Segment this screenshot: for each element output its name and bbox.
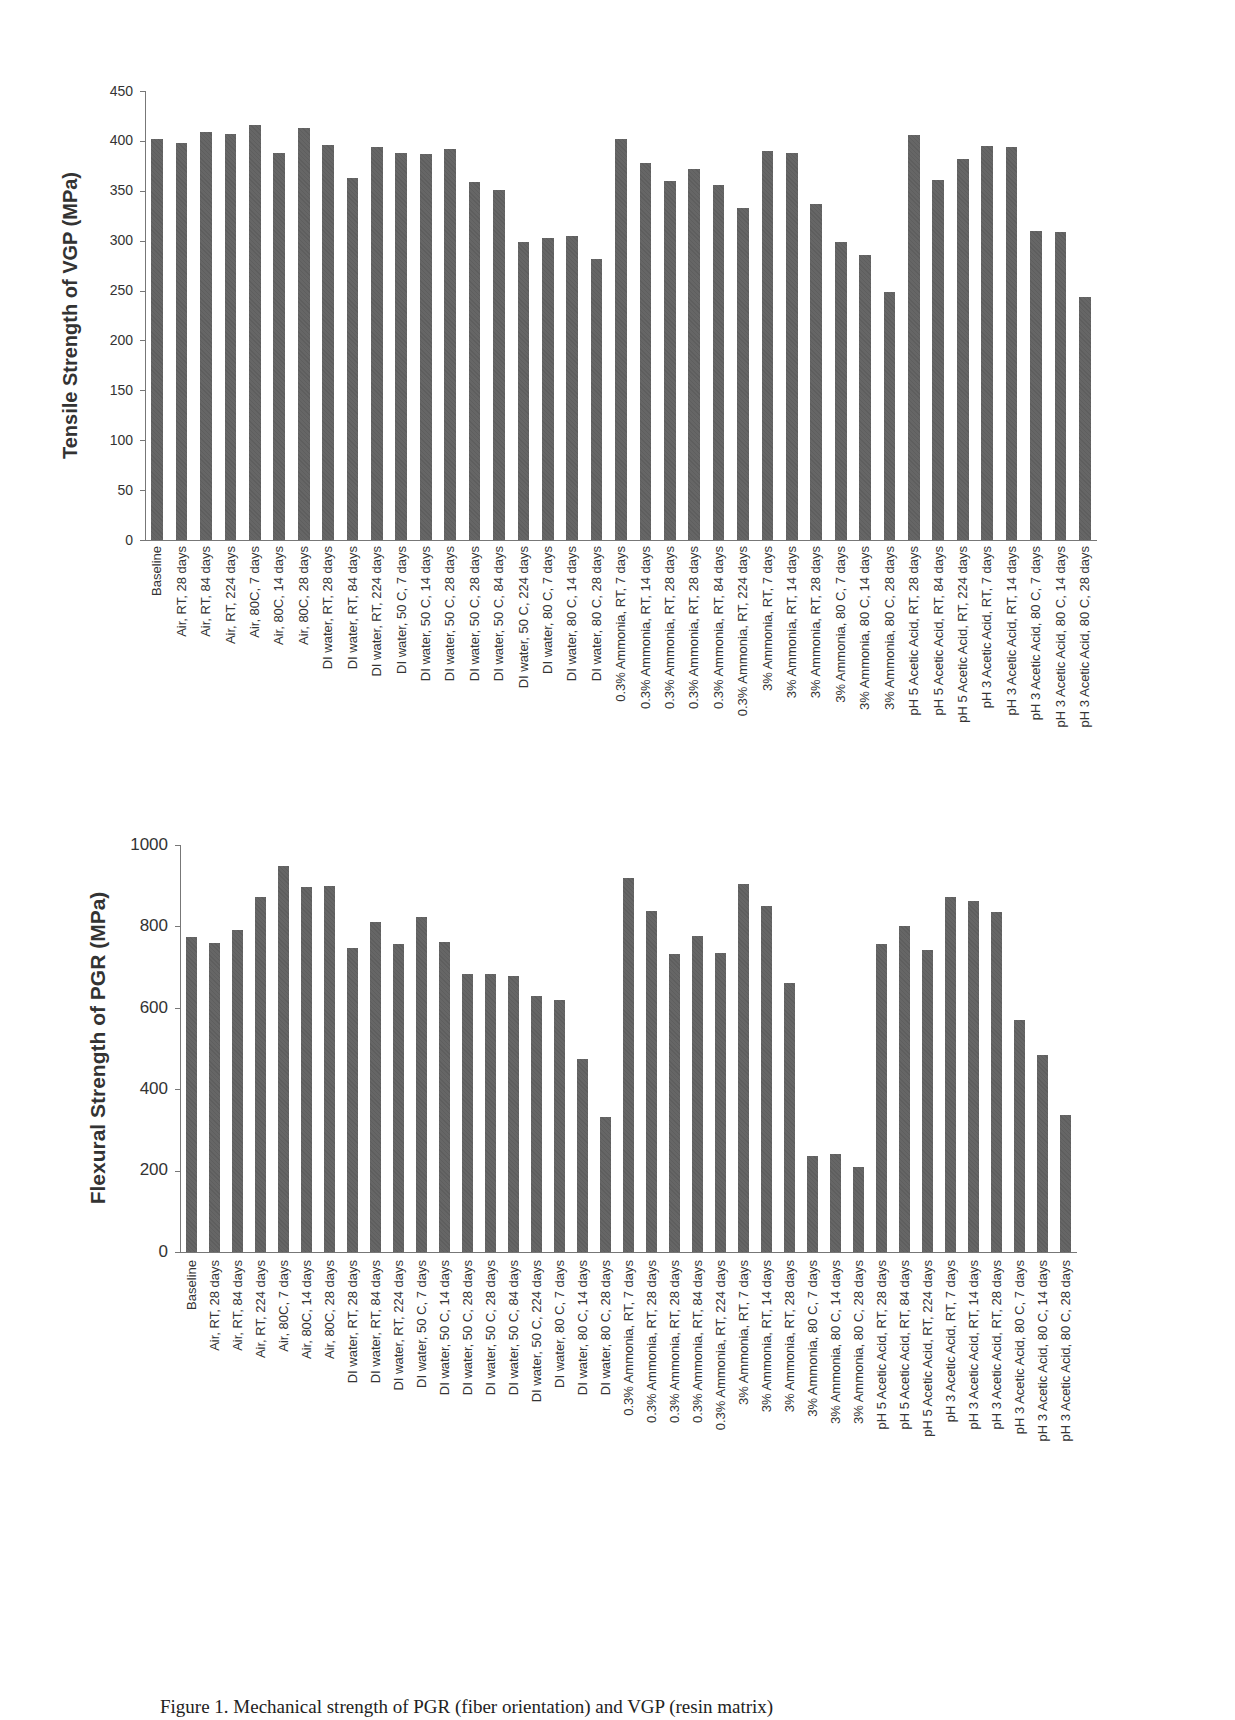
- x-tick-label: 0.3% Ammonia, RT, 224 days: [735, 546, 750, 786]
- x-tick-label: DI water, 50 C, 28 days: [460, 1260, 475, 1500]
- x-tick-label: Air, RT, 84 days: [230, 1260, 245, 1500]
- y-tick-label: 200: [110, 1160, 168, 1180]
- y-tick: [140, 340, 145, 341]
- x-tick-label: pH 5 Acetic Acid, RT, 224 days: [920, 1260, 935, 1500]
- x-tick-label: pH 5 Acetic Acid, RT, 84 days: [897, 1260, 912, 1500]
- bar: [784, 983, 795, 1252]
- bar: [200, 132, 212, 540]
- bar: [761, 906, 772, 1252]
- bar: [209, 943, 220, 1252]
- x-tick-label: Air, 80C, 14 days: [271, 546, 286, 786]
- bar: [957, 159, 969, 540]
- bar: [922, 950, 933, 1252]
- bar: [518, 242, 530, 540]
- x-tick-label: 3% Ammonia, 80 C, 7 days: [805, 1260, 820, 1500]
- x-tick-label: DI water, 50 C, 28 days: [442, 546, 457, 786]
- x-tick-label: 3% Ammonia, RT, 14 days: [784, 546, 799, 786]
- bar: [298, 128, 310, 540]
- x-tick-label: pH 5 Acetic Acid, RT, 84 days: [931, 546, 946, 786]
- x-tick-label: DI water, 50 C, 84 days: [491, 546, 506, 786]
- x-tick-label: 3% Ammonia, 80 C, 14 days: [857, 546, 872, 786]
- x-tick-label: pH 3 Acetic Acid, RT, 14 days: [966, 1260, 981, 1500]
- bar: [322, 145, 334, 540]
- bar: [439, 942, 450, 1252]
- bar: [347, 178, 359, 540]
- x-tick-label: pH 5 Acetic Acid, RT, 28 days: [874, 1260, 889, 1500]
- bar: [273, 153, 285, 540]
- x-tick-label: DI water, 80 C, 28 days: [589, 546, 604, 786]
- y-axis-title: Flexural Strength of PGR (MPa): [86, 798, 110, 1298]
- y-tick-label: 100: [75, 432, 133, 448]
- x-tick-label: DI water, 80 C, 7 days: [540, 546, 555, 786]
- bar: [324, 886, 335, 1252]
- x-tick-label: Baseline: [149, 546, 164, 786]
- x-tick-label: 0.3% Ammonia, RT, 28 days: [686, 546, 701, 786]
- x-tick-label: pH 5 Acetic Acid, RT, 28 days: [906, 546, 921, 786]
- bar: [232, 930, 243, 1252]
- y-tick-label: 200: [75, 332, 133, 348]
- x-tick-label: DI water, 50 C, 14 days: [437, 1260, 452, 1500]
- x-tick-label: DI water, 50 C, 7 days: [414, 1260, 429, 1500]
- bar: [508, 976, 519, 1252]
- bar: [278, 866, 289, 1252]
- y-tick-label: 600: [110, 998, 168, 1018]
- bar: [420, 154, 432, 540]
- x-tick-label: 3% Ammonia, RT, 28 days: [808, 546, 823, 786]
- x-tick-label: Air, RT, 224 days: [223, 546, 238, 786]
- y-tick: [140, 241, 145, 242]
- x-tick-label: pH 3 Acetic Acid, RT, 14 days: [1004, 546, 1019, 786]
- y-tick-label: 250: [75, 282, 133, 298]
- x-tick-label: Air, RT, 84 days: [198, 546, 213, 786]
- bar: [835, 242, 847, 540]
- x-tick-label: DI water, RT, 28 days: [320, 546, 335, 786]
- bar: [968, 901, 979, 1252]
- bar: [762, 151, 774, 540]
- x-tick-label: 0.3% Ammonia, RT, 224 days: [713, 1260, 728, 1500]
- bar: [249, 125, 261, 540]
- x-tick-label: Air, 80C, 7 days: [276, 1260, 291, 1500]
- bar: [884, 292, 896, 540]
- x-tick-label: 3% Ammonia, 80 C, 28 days: [851, 1260, 866, 1500]
- y-tick-label: 0: [75, 532, 133, 548]
- y-tick-label: 0: [110, 1242, 168, 1262]
- y-tick: [140, 91, 145, 92]
- x-tick-label: DI water, 50 C, 7 days: [394, 546, 409, 786]
- x-tick-label: DI water, 50 C, 28 days: [483, 1260, 498, 1500]
- bar: [737, 208, 749, 540]
- y-tick-label: 800: [110, 916, 168, 936]
- bar: [301, 887, 312, 1252]
- x-tick-label: pH 5 Acetic Acid, RT, 224 days: [955, 546, 970, 786]
- y-tick-label: 400: [75, 132, 133, 148]
- y-axis: [145, 91, 146, 540]
- x-tick-label: Air, RT, 28 days: [207, 1260, 222, 1500]
- x-tick-label: 0.3% Ammonia, RT, 7 days: [621, 1260, 636, 1500]
- x-tick-label: Air, 80C, 7 days: [247, 546, 262, 786]
- x-tick-label: 3% Ammonia, RT, 28 days: [782, 1260, 797, 1500]
- x-tick-label: Air, 80C, 14 days: [299, 1260, 314, 1500]
- x-tick-label: pH 3 Acetic Acid, RT, 7 days: [979, 546, 994, 786]
- x-tick-label: pH 3 Acetic Acid, 80 C, 14 days: [1035, 1260, 1050, 1500]
- bar: [176, 143, 188, 540]
- x-axis: [180, 1252, 1077, 1253]
- bar: [786, 153, 798, 540]
- x-tick-label: pH 3 Acetic Acid, 80 C, 7 days: [1028, 546, 1043, 786]
- x-tick-label: Air, 80C, 28 days: [296, 546, 311, 786]
- x-tick-label: Air, 80C, 28 days: [322, 1260, 337, 1500]
- x-tick-label: DI water, 50 C, 28 days: [467, 546, 482, 786]
- x-tick-label: pH 3 Acetic Acid, 80 C, 14 days: [1053, 546, 1068, 786]
- x-tick-label: 3% Ammonia, 80 C, 7 days: [833, 546, 848, 786]
- bar: [991, 912, 1002, 1252]
- y-tick: [140, 291, 145, 292]
- bar: [370, 922, 381, 1252]
- x-tick-label: DI water, RT, 224 days: [391, 1260, 406, 1500]
- y-tick: [140, 490, 145, 491]
- bar: [692, 936, 703, 1252]
- bar: [1037, 1055, 1048, 1252]
- bar: [1006, 147, 1018, 540]
- x-tick-label: DI water, 50 C, 224 days: [529, 1260, 544, 1500]
- y-tick-label: 50: [75, 482, 133, 498]
- bar: [444, 149, 456, 540]
- y-tick: [175, 1171, 180, 1172]
- bar: [531, 996, 542, 1252]
- y-tick-label: 300: [75, 232, 133, 248]
